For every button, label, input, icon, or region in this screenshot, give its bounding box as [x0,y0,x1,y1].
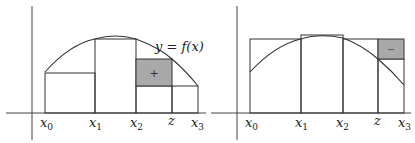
tick-x0: x0 [245,115,258,132]
curve-label: y = f(x) [154,39,204,54]
rect-x1-x2 [95,39,136,113]
rect-x2-z [136,86,172,113]
tick-z: z [373,113,381,128]
left-ticks: x0 x1 x2 z x3 [40,113,204,132]
tick-x2: x2 [130,115,143,132]
tick-x2: x2 [336,115,349,132]
tick-x0: x0 [40,115,53,132]
rect-x0-x1 [45,73,95,113]
rect-z-x3 [378,59,404,113]
riemann-sum-diagram: y = f(x) + x0 x1 x2 z x3 − x0 x1 x2 z x3 [0,0,415,143]
rect-x1-x2 [301,35,343,113]
tick-x3: x3 [398,115,411,132]
right-panel [211,6,411,140]
tick-x1: x1 [295,115,308,132]
rect-z-x3 [172,86,198,113]
tick-z: z [167,113,175,128]
tick-x1: x1 [89,115,102,132]
minus-sign: − [387,44,395,55]
right-ticks: x0 x1 x2 z x3 [245,113,411,132]
rect-x2-z [343,39,378,113]
plus-sign: + [149,67,158,80]
left-panel [6,6,206,140]
tick-x3: x3 [191,115,204,132]
